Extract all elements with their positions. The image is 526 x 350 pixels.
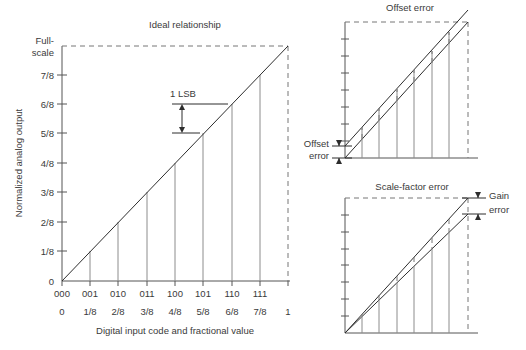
ytick-label-1-8: 1/8 — [41, 246, 54, 257]
xcode-001: 001 — [82, 288, 98, 299]
xcode-000: 000 — [54, 288, 70, 299]
ytick-label-2-8: 2/8 — [41, 217, 54, 228]
ytick-label-full: Full- — [36, 35, 54, 46]
main-x-ticks — [62, 281, 288, 286]
scale-gain-error-line — [345, 214, 468, 333]
gain-arrow-down-head — [475, 192, 481, 198]
xfrac-3-8: 3/8 — [140, 306, 153, 317]
xcode-010: 010 — [110, 288, 126, 299]
gain-error-label-line2: error — [489, 204, 509, 215]
offset-chart-title: Offset error — [386, 2, 434, 13]
lsb-arrow-down-head — [179, 127, 185, 133]
offset-error-label-line2: error — [309, 150, 329, 161]
offset-arrow-up-head — [336, 158, 342, 164]
scale-ideal-line — [345, 198, 468, 333]
xcode-100: 100 — [167, 288, 183, 299]
xfrac-1-8: 1/8 — [83, 306, 96, 317]
scale-step-lines — [362, 232, 449, 333]
xfrac-6-8: 6/8 — [225, 306, 238, 317]
offset-error-label-line1: Offset — [304, 138, 330, 149]
xfrac-5-8: 5/8 — [196, 306, 209, 317]
gain-arrow-up-head — [475, 214, 481, 220]
ytick-label-7-8: 7/8 — [41, 70, 54, 81]
one-lsb-label: 1 LSB — [170, 88, 196, 99]
offset-actual-line — [345, 10, 468, 146]
main-y-axis-label: Normalized analog output — [13, 109, 24, 218]
offset-arrow-down-head — [336, 140, 342, 146]
xcode-111: 111 — [253, 288, 267, 299]
one-lsb-annotation: 1 LSB — [170, 88, 228, 133]
scale-factor-error-panel: Scale-factor error — [341, 181, 509, 333]
offset-ideal-line — [345, 22, 468, 158]
offset-step-lines — [362, 32, 449, 158]
xfrac-0: 0 — [59, 306, 64, 317]
scale-chart-title: Scale-factor error — [375, 181, 448, 192]
ytick-label-scale: scale — [32, 47, 54, 58]
xfrac-4-8: 4/8 — [168, 306, 181, 317]
xcode-101: 101 — [195, 288, 211, 299]
main-x-axis-label: Digital input code and fractional value — [96, 325, 254, 336]
xfrac-2-8: 2/8 — [111, 306, 124, 317]
ytick-label-6-8: 6/8 — [41, 99, 54, 110]
xfrac-1: 1 — [285, 306, 290, 317]
gain-error-annotation: Gain error — [462, 190, 509, 220]
xfrac-7-8: 7/8 — [253, 306, 266, 317]
main-chart-panel: Ideal relationship Full- scale 7/8 6/8 5… — [13, 19, 291, 336]
ytick-label-5-8: 5/8 — [41, 128, 54, 139]
dac-transfer-characteristics-figure: Ideal relationship Full- scale 7/8 6/8 5… — [0, 0, 526, 350]
xcode-011: 011 — [139, 288, 154, 299]
lsb-arrow-up-head — [179, 104, 185, 110]
xcode-110: 110 — [224, 288, 239, 299]
main-chart-title: Ideal relationship — [149, 19, 221, 30]
figure-container: Ideal relationship Full- scale 7/8 6/8 5… — [0, 0, 526, 350]
ytick-label-0: 0 — [49, 276, 54, 287]
gain-error-label-line1: Gain — [489, 190, 509, 201]
ytick-label-3-8: 3/8 — [41, 187, 54, 198]
offset-ideal-risers — [362, 32, 449, 139]
offset-error-panel: Offset error — [304, 2, 478, 164]
ytick-label-4-8: 4/8 — [41, 158, 54, 169]
